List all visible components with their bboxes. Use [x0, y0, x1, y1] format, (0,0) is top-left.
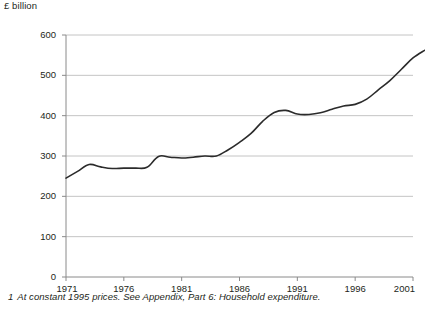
- y-axis-tick-label-100: 100: [16, 232, 56, 242]
- gridlines-group: [66, 35, 413, 277]
- footnote-text: At constant 1995 prices. See Appendix, P…: [17, 291, 320, 302]
- axis-ticks-group: [62, 35, 413, 281]
- series-line-household-expenditure: [66, 50, 425, 178]
- x-axis-tick-label-1996: 1996: [345, 284, 366, 294]
- y-axis-tick-label-600: 600: [16, 30, 56, 40]
- footnote-marker: 1: [8, 291, 13, 302]
- y-axis-tick-label-200: 200: [16, 191, 56, 201]
- y-axis-tick-label-300: 300: [16, 151, 56, 161]
- x-axis-tick-label-2001: 2001: [394, 284, 415, 294]
- y-axis-tick-label-400: 400: [16, 111, 56, 121]
- y-axis-tick-label-500: 500: [16, 70, 56, 80]
- chart-plot-area: [0, 0, 425, 310]
- chart-footnote: 1At constant 1995 prices. See Appendix, …: [8, 291, 320, 302]
- y-axis-tick-label-0: 0: [16, 272, 56, 282]
- chart-figure: £ billion 0100200300400500600 1971197619…: [0, 0, 425, 310]
